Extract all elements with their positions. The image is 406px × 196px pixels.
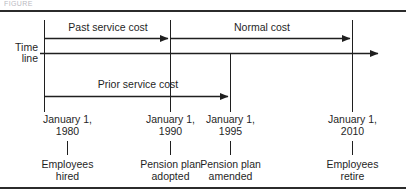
milestone-event-line1: Employees — [20, 158, 115, 170]
milestone-date-line1: January 1, — [305, 113, 400, 125]
milestone-date-pension-plan-amended: January 1, 1995 — [183, 113, 278, 137]
milestone-event-line2: hired — [20, 170, 115, 182]
milestone-event-employees-retire: Employees retire — [305, 158, 400, 182]
timeline-axis-label-line2: line — [0, 53, 38, 64]
milestone-date-line2: 1980 — [20, 125, 115, 137]
milestone-date-line2: 2010 — [305, 125, 400, 137]
milestone-date-employees-hired: January 1, 1980 — [20, 113, 115, 137]
milestone-event-line2: amended — [180, 170, 281, 182]
milestone-event-pension-plan-amended: Pension plan amended — [180, 158, 281, 182]
milestone-date-employees-retire: January 1, 2010 — [305, 113, 400, 137]
milestone-event-line2: retire — [305, 170, 400, 182]
span-label-past-service-cost: Past service cost — [45, 22, 171, 34]
milestone-date-line2: 1995 — [183, 125, 278, 137]
span-label-normal-cost: Normal cost — [171, 22, 353, 34]
milestone-event-line1: Pension plan — [180, 158, 281, 170]
milestone-date-line1: January 1, — [20, 113, 115, 125]
milestone-event-line1: Employees — [305, 158, 400, 170]
pension-timeline-figure: FIGURE — [0, 0, 406, 196]
milestone-event-employees-hired: Employees hired — [20, 158, 115, 182]
span-label-prior-service-cost: Prior service cost — [45, 79, 231, 91]
milestone-date-line1: January 1, — [183, 113, 278, 125]
